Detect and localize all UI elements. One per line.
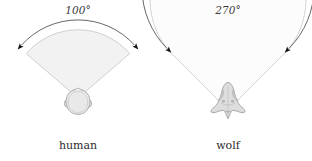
wolf-caption: wolf	[216, 139, 241, 152]
human-panel: 100° human	[22, 4, 135, 152]
figure-canvas: 100° human	[0, 0, 312, 161]
human-caption: human	[59, 139, 97, 152]
field-of-view-figure: 100° human	[0, 0, 312, 161]
human-angle-label: 100°	[65, 4, 90, 16]
wolf-angle-label: 270°	[214, 4, 240, 16]
wolf-panel: 270° wolf	[142, 0, 312, 152]
human-vision-cone	[26, 30, 129, 98]
human-head-icon	[64, 88, 91, 114]
